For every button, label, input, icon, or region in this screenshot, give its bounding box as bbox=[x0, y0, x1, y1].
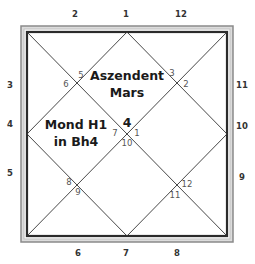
inner-number-12: 12 bbox=[182, 179, 193, 189]
outer-number-bottom-right: 8 bbox=[174, 248, 180, 258]
outer-number-right-top: 11 bbox=[236, 80, 248, 90]
inner-number-7: 7 bbox=[112, 128, 117, 138]
inner-number-10: 10 bbox=[122, 138, 133, 148]
outer-number-top-right: 12 bbox=[175, 9, 187, 19]
inner-number-3: 3 bbox=[169, 68, 174, 78]
inner-number-6: 6 bbox=[63, 79, 68, 89]
outer-number-bottom-left: 6 bbox=[75, 248, 81, 258]
inner-number-1: 1 bbox=[134, 128, 139, 138]
outer-number-right-bottom: 9 bbox=[239, 172, 245, 182]
top-house-label-line2: Mars bbox=[110, 85, 144, 100]
left-house-label-line2: in Bh4 bbox=[54, 134, 99, 149]
outer-number-left-top: 3 bbox=[7, 80, 13, 90]
top-house-label-line1: Aszendent bbox=[90, 68, 164, 83]
outer-number-right-middle: 10 bbox=[236, 121, 248, 131]
outer-number-bottom-center: 7 bbox=[123, 248, 129, 258]
left-house-label-line1: Mond H1 bbox=[45, 117, 107, 132]
outer-number-left-bottom: 5 bbox=[7, 168, 13, 178]
outer-number-left-middle: 4 bbox=[7, 119, 13, 129]
inner-number-5: 5 bbox=[78, 70, 83, 80]
center-house-number: 4 bbox=[123, 115, 132, 130]
astrology-chart: 2 1 12 3 4 5 11 10 9 6 7 8 5 6 3 2 4 7 1… bbox=[0, 0, 255, 264]
inner-number-2: 2 bbox=[183, 79, 188, 89]
outer-number-top-center: 1 bbox=[123, 9, 129, 19]
inner-number-11: 11 bbox=[170, 190, 181, 200]
inner-number-8: 8 bbox=[66, 177, 71, 187]
outer-number-top-left: 2 bbox=[72, 9, 78, 19]
inner-number-9: 9 bbox=[75, 187, 80, 197]
